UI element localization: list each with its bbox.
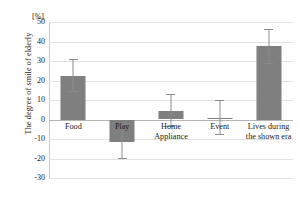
y-axis-title: The degree of smile of elderly bbox=[24, 9, 33, 159]
error-bar-cap-bottom bbox=[69, 91, 78, 92]
bar-slot bbox=[49, 22, 98, 178]
error-bar-cap-top bbox=[264, 29, 273, 30]
x-axis-category-label-line: Appliance bbox=[154, 132, 188, 142]
error-bar-cap-top bbox=[215, 100, 224, 101]
x-axis-category-label-line: the shown era bbox=[246, 132, 291, 142]
x-axis-category-label-line: Lives during bbox=[246, 122, 291, 132]
bar-slot bbox=[98, 22, 147, 178]
x-axis-category-label-line: Home bbox=[154, 122, 188, 132]
y-axis-tick-label: 50 bbox=[37, 18, 45, 26]
error-bar-cap-bottom bbox=[264, 63, 273, 64]
plot-area: 50403020100-10-20-30 bbox=[49, 22, 293, 178]
y-axis-tick-label: 20 bbox=[37, 77, 45, 85]
error-bar-cap-top bbox=[69, 59, 78, 60]
gridline bbox=[49, 178, 293, 179]
x-axis-category-label-line: Event bbox=[210, 122, 229, 132]
x-axis-category-label-line: Play bbox=[115, 122, 130, 132]
y-axis-tick-label: -30 bbox=[34, 174, 45, 182]
error-bar bbox=[73, 59, 74, 92]
y-axis-tick-label: 0 bbox=[41, 116, 45, 124]
y-axis-tick-label: 30 bbox=[37, 57, 45, 65]
bar-slot bbox=[244, 22, 293, 178]
x-axis-category-label: Food bbox=[65, 122, 82, 132]
error-bar-cap-top bbox=[166, 94, 175, 95]
bar-slot bbox=[195, 22, 244, 178]
bar-slot bbox=[147, 22, 196, 178]
x-axis-category-label: Event bbox=[210, 122, 229, 132]
x-axis-category-label: Lives duringthe shown era bbox=[246, 122, 291, 142]
x-axis-category-label: Play bbox=[115, 122, 130, 132]
y-axis-tick-label: 40 bbox=[37, 38, 45, 46]
bar-chart: The degree of smile of elderly [%] 50403… bbox=[0, 0, 300, 201]
error-bar-cap-bottom bbox=[215, 134, 224, 135]
error-bar-cap-bottom bbox=[118, 158, 127, 159]
y-axis-tick-label: -10 bbox=[34, 135, 45, 143]
y-axis-tick-label: -20 bbox=[34, 155, 45, 163]
y-axis-tick-label: 10 bbox=[37, 96, 45, 104]
x-axis-category-label-line: Food bbox=[65, 122, 82, 132]
error-bar bbox=[268, 29, 269, 64]
x-axis-category-label: HomeAppliance bbox=[154, 122, 188, 142]
